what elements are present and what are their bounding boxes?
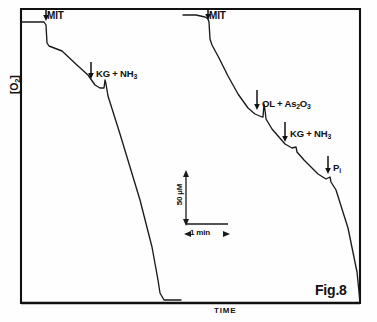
figure-page: MIT MIT KG + NH3 OL + As2O3 KG + NH3 Pi …: [0, 0, 377, 322]
annotation-ol-as2o3-right: OL + As2O3: [262, 98, 311, 110]
annotation-mit-right: MIT: [209, 10, 226, 21]
annotation-kg-nh3-right: KG + NH3: [290, 128, 331, 140]
annotation-mit-left: MIT: [47, 10, 64, 21]
scale-bar-vertical-arrow-down: [183, 219, 189, 226]
annotation-pi-right: Pi: [333, 162, 341, 174]
oxygraph-plot: [0, 0, 377, 322]
event-arrows: [43, 10, 331, 174]
scale-bar: [183, 170, 230, 237]
annotation-kg-nh3-left: KG + NH3: [96, 68, 137, 80]
figure-caption: Fig.8: [315, 282, 347, 298]
trace-left: [21, 22, 181, 300]
scale-bar-horizontal-label: 1 min: [190, 228, 210, 237]
scale-bar-vertical-arrow-up: [183, 170, 189, 177]
x-axis-label: TIME: [214, 306, 236, 315]
plot-frame: [21, 9, 360, 303]
event-arrow-head: [325, 168, 331, 174]
y-axis-label: [O2]: [8, 68, 22, 102]
scale-bar-horizontal-arrow-right: [223, 231, 230, 237]
scale-bar-vertical-label: 50 µM: [175, 171, 184, 219]
trace-right: [183, 15, 360, 303]
event-arrow-head: [254, 104, 260, 110]
